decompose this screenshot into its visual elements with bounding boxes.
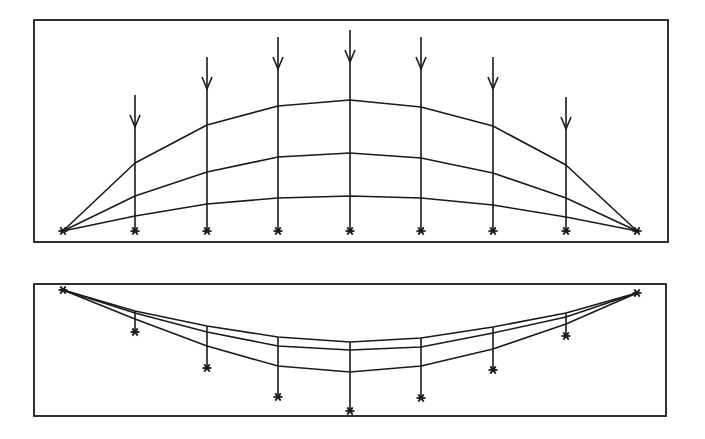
support-asterisk-icon <box>59 286 68 293</box>
diagram-stage <box>0 0 705 439</box>
top-panel-frame <box>34 20 668 242</box>
funicular-diagram <box>0 0 705 439</box>
support-asterisk-icon <box>633 289 642 296</box>
bottom-curve-middle <box>63 290 637 350</box>
